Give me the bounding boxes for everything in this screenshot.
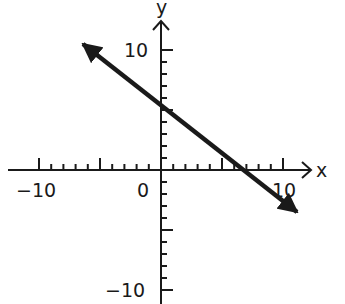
y-tick-label-pos10: 10 (124, 39, 148, 61)
x-tick-label-neg10: −10 (16, 179, 56, 201)
y-axis (153, 21, 173, 304)
plotted-line (83, 44, 297, 212)
y-axis-label: y (156, 0, 167, 18)
x-axis (8, 158, 311, 178)
y-tick-label-neg10: −10 (105, 279, 145, 301)
coordinate-plane: y x −10 0 10 10 −10 (0, 0, 345, 304)
origin-label: 0 (137, 179, 149, 201)
x-axis-label: x (316, 159, 327, 181)
